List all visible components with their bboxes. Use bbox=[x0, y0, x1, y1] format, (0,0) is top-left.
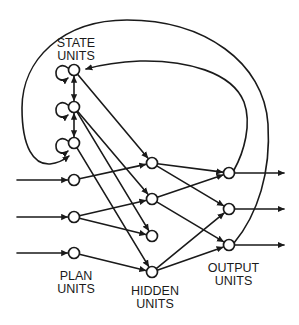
self-loop-state2 bbox=[56, 103, 68, 117]
state-label-line2: UNITS bbox=[57, 49, 95, 63]
output-unit-3-icon bbox=[224, 240, 235, 251]
recurrent-network-diagram: STATE UNITS PLAN UNITS HIDDEN UNITS OUTP… bbox=[0, 0, 299, 325]
recurrent-output1-to-state1 bbox=[86, 61, 247, 170]
hidden-unit-3-icon bbox=[147, 231, 158, 242]
self-loop-state3 bbox=[56, 139, 68, 153]
hidden-unit-4-icon bbox=[147, 267, 158, 278]
state-unit-1-icon bbox=[69, 65, 80, 76]
hidden-label-line2: UNITS bbox=[136, 297, 174, 311]
hidden-units-label: HIDDEN UNITS bbox=[131, 284, 179, 311]
state-unit-2-icon bbox=[69, 102, 80, 113]
plan-units-label: PLAN UNITS bbox=[57, 269, 95, 296]
feedforward-hidden2-to-output1 bbox=[157, 175, 223, 197]
hidden-unit-1-icon bbox=[147, 158, 158, 169]
feedforward-state2-to-hidden2 bbox=[78, 111, 148, 194]
plan-unit-3-icon bbox=[69, 248, 80, 259]
plan-label-line2: UNITS bbox=[57, 282, 95, 296]
state-units-label: STATE UNITS bbox=[57, 36, 95, 63]
feedforward-state1-to-hidden1 bbox=[78, 74, 148, 158]
output-label-line2: UNITS bbox=[215, 274, 253, 288]
output-units-label: OUTPUT UNITS bbox=[208, 261, 260, 288]
hidden-unit-2-icon bbox=[147, 194, 158, 205]
feedforward-hidden1-to-output1 bbox=[157, 164, 222, 172]
plan-unit-2-icon bbox=[69, 212, 80, 223]
output-unit-2-icon bbox=[224, 204, 235, 215]
feedforward-plan2-to-hidden3 bbox=[79, 218, 145, 234]
output-unit-1-icon bbox=[224, 168, 235, 179]
hidden-label-line1: HIDDEN bbox=[131, 284, 179, 298]
state-unit-3-icon bbox=[69, 138, 80, 149]
diagram-canvas: STATE UNITS PLAN UNITS HIDDEN UNITS OUTP… bbox=[0, 0, 299, 325]
self-loop-state1 bbox=[56, 66, 68, 80]
feedforward-plan1-to-hidden1 bbox=[79, 164, 145, 178]
plan-unit-1-icon bbox=[69, 175, 80, 186]
